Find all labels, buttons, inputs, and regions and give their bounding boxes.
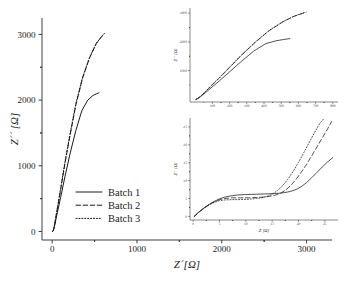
x-axis-title: Z´[Ω]: [174, 258, 200, 270]
svg-text:0: 0: [50, 244, 55, 254]
svg-text:5: 5: [185, 197, 187, 201]
svg-text:15: 15: [183, 161, 187, 165]
legend-label-batch-2: Batch 2: [108, 200, 140, 211]
legend-label-batch-1: Batch 1: [108, 187, 140, 198]
svg-text:400: 400: [261, 104, 267, 108]
svg-text:1000: 1000: [17, 161, 36, 171]
svg-text:25: 25: [183, 125, 187, 129]
svg-text:20: 20: [297, 222, 301, 226]
y-axis-title: Z´´ [Ω]: [8, 113, 20, 146]
svg-text:3000: 3000: [17, 30, 36, 40]
svg-text:2000: 2000: [17, 95, 36, 105]
svg-text:600: 600: [296, 104, 302, 108]
svg-text:10: 10: [183, 179, 187, 183]
x-axis-title: Z´[Ω]: [259, 228, 270, 233]
svg-text:3000: 3000: [298, 244, 317, 254]
svg-text:2000: 2000: [213, 244, 232, 254]
svg-text:500: 500: [279, 104, 285, 108]
curve-batch-1: [53, 93, 99, 232]
svg-text:15: 15: [270, 222, 274, 226]
svg-text:0: 0: [185, 215, 187, 219]
svg-text:0: 0: [31, 227, 36, 237]
svg-text:1000: 1000: [128, 244, 147, 254]
inset-top-panel: 100200300400500600700800100020003000Z´[Ω…: [168, 0, 347, 116]
legend-label-batch-3: Batch 3: [108, 213, 140, 224]
curve-batch-3: [53, 34, 104, 232]
y-axis-title: Z´´ [Ω]: [173, 162, 178, 175]
svg-text:2000: 2000: [180, 40, 187, 44]
svg-text:100: 100: [210, 104, 216, 108]
svg-text:300: 300: [244, 104, 250, 108]
svg-text:0: 0: [192, 222, 194, 226]
curve-batch-2: [53, 34, 105, 232]
plot-canvas: 01000200030000100020003000Z´[Ω]Z´´ [Ω] 1…: [0, 0, 347, 294]
svg-text:5: 5: [219, 222, 221, 226]
svg-text:200: 200: [227, 104, 233, 108]
svg-text:10: 10: [244, 222, 248, 226]
svg-text:800: 800: [330, 104, 336, 108]
svg-text:700: 700: [313, 104, 319, 108]
y-axis-title: Z´´ [Ω]: [173, 48, 178, 61]
legend: Batch 1Batch 2Batch 3: [76, 187, 140, 224]
svg-text:3000: 3000: [180, 11, 187, 15]
svg-text:1000: 1000: [180, 69, 187, 73]
svg-text:25: 25: [323, 222, 327, 226]
inset-bottom-panel: 05101520250510152025Z´[Ω]Z´´ [Ω]: [168, 108, 347, 234]
svg-text:20: 20: [183, 143, 187, 147]
eis-nyquist-figure: 01000200030000100020003000Z´[Ω]Z´´ [Ω] 1…: [0, 0, 347, 294]
